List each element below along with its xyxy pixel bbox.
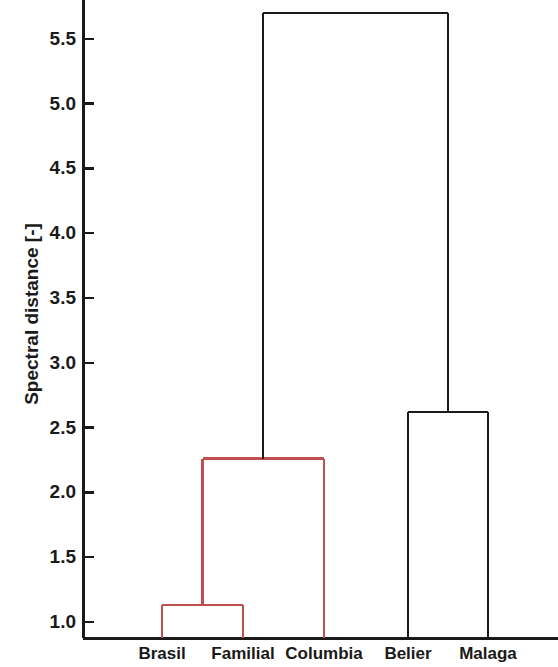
dendrogram-links xyxy=(162,13,488,638)
x-leaf-label-familial: Familial xyxy=(211,645,274,662)
x-leaf-label-belier: Belier xyxy=(384,645,431,662)
dendrogram-link-m2 xyxy=(203,459,325,638)
dendrogram-link-m3 xyxy=(408,412,488,638)
dendrogram-link-m4 xyxy=(263,13,448,459)
y-axis-ticks xyxy=(83,39,94,622)
x-leaf-label-malaga: Malaga xyxy=(459,645,517,662)
x-leaf-label-brasil: Brasil xyxy=(138,645,185,662)
x-leaf-label-columbia: Columbia xyxy=(285,645,362,662)
dendrogram-link-m1 xyxy=(162,605,243,638)
dendrogram-plot-area xyxy=(0,0,558,667)
dendrogram-chart: Spectral distance [-] 5.55.04.54.03.53.0… xyxy=(0,0,558,667)
